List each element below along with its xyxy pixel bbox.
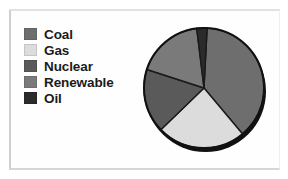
legend-item-label: Gas [44, 43, 69, 58]
pie-slices-svg [143, 27, 273, 157]
legend-item-coal[interactable]: Coal [24, 26, 144, 42]
legend-swatch-icon [24, 76, 37, 88]
chart-legend: CoalGasNuclearRenewableOil [24, 26, 144, 106]
legend-item-nuclear[interactable]: Nuclear [24, 58, 144, 74]
legend-item-label: Nuclear [44, 59, 93, 74]
legend-item-gas[interactable]: Gas [24, 42, 144, 58]
pie-chart [143, 27, 273, 157]
legend-item-oil[interactable]: Oil [24, 90, 144, 106]
legend-swatch-icon [24, 60, 37, 72]
legend-swatch-icon [24, 92, 37, 104]
legend-item-label: Oil [44, 91, 62, 106]
legend-swatch-icon [24, 28, 37, 40]
legend-item-renewable[interactable]: Renewable [24, 74, 144, 90]
legend-item-label: Renewable [44, 75, 114, 90]
legend-swatch-icon [24, 44, 37, 56]
chart-page: CoalGasNuclearRenewableOil [0, 0, 288, 179]
legend-item-label: Coal [44, 27, 73, 42]
